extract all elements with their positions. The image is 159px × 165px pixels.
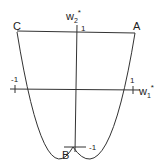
point-a-label: A <box>133 21 140 32</box>
point-b-label: B <box>62 150 69 161</box>
x-axis <box>10 89 140 90</box>
tick-label-x-pos: 1 <box>130 77 134 85</box>
x-axis-label: w1* <box>139 84 154 99</box>
tick-label-y-neg: -1 <box>89 144 96 152</box>
tick-label-x-neg: -1 <box>11 76 18 84</box>
point-c-label: C <box>13 21 21 32</box>
chord-ca <box>17 31 135 33</box>
tick-label-y-pos: 1 <box>81 25 85 33</box>
y-axis <box>75 25 77 152</box>
y-axis-label: w2* <box>66 9 81 24</box>
